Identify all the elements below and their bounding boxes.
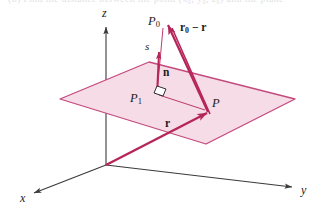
point-label-p0: P0 xyxy=(148,15,160,28)
axis-label-z: z xyxy=(102,7,107,19)
vector-label-r0-minus-r: r0 − r xyxy=(180,22,206,34)
point-label-p: P xyxy=(212,97,220,110)
plane xyxy=(60,62,295,144)
y-axis xyxy=(106,165,292,187)
x-axis xyxy=(34,165,106,193)
vector-label-r: r xyxy=(165,118,170,130)
point-label-p1: P1 xyxy=(130,92,142,105)
axis-label-x: x xyxy=(20,192,25,204)
point-label-p1-sub: 1 xyxy=(138,96,142,106)
axis-label-y: y xyxy=(301,184,306,196)
point-label-p0-base: P xyxy=(148,14,156,28)
vector-label-r0-sub: 0 xyxy=(185,26,189,35)
figure-canvas xyxy=(0,0,319,216)
plane-distance-figure: (b) Find the distance between the point … xyxy=(0,0,319,216)
point-label-p0-sub: 0 xyxy=(156,19,160,29)
point-label-p1-base: P xyxy=(130,91,138,105)
segment-label-s: s xyxy=(145,41,149,52)
vector-label-r0-rest: − r xyxy=(189,21,206,33)
vector-label-n: n xyxy=(163,67,169,79)
